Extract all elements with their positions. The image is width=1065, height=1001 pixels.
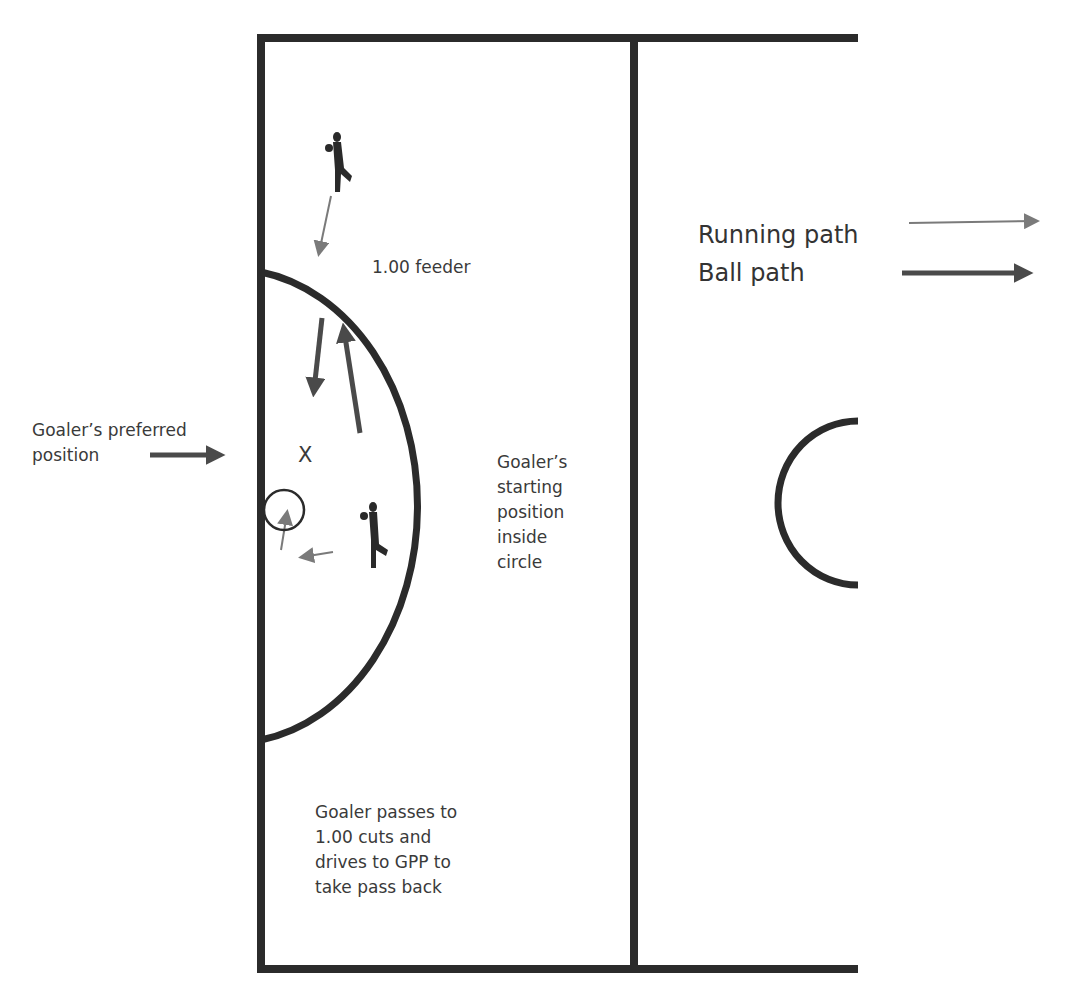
preferred-position-circle (264, 490, 304, 530)
preferred-position-label: Goaler’s preferred position (32, 418, 187, 468)
starting-position-label: Goaler’s starting position inside circle (497, 450, 567, 575)
ball-path-down-arrow (314, 318, 322, 390)
feeder-run-arrow (319, 196, 331, 253)
ball-path-up-arrow (344, 330, 360, 433)
legend-ball-path-label: Ball path (698, 258, 805, 288)
feeder-label: 1.00 feeder (372, 255, 470, 280)
player-silhouette-icon (325, 132, 352, 192)
marker-x: X (298, 443, 312, 468)
running-paths (281, 196, 333, 557)
goaler-silhouette-icon (360, 502, 388, 568)
goaler-run-up-arrow (281, 513, 287, 550)
drill-description: Goaler passes to 1.00 cuts and drives to… (315, 800, 457, 900)
centre-circle (778, 421, 858, 585)
legend-running-path-label: Running path (698, 220, 859, 250)
goaler-run-left-arrow (302, 552, 333, 557)
goal-circle (261, 272, 417, 740)
legend-running-path-arrow (909, 221, 1036, 223)
